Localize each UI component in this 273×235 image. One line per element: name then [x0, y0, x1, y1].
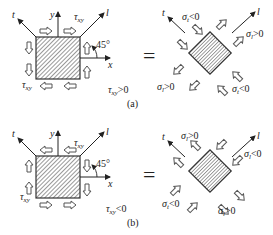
- shear-arrow-left-2: [25, 64, 33, 76]
- l-axis-arrow-rotated: [232, 12, 255, 33]
- shear-arrow-bottom-1: [40, 82, 52, 90]
- l-axis-label: l: [106, 126, 109, 137]
- stress-transformation-figure: y x t l 45° τxy τxy: [0, 0, 273, 235]
- t-axis-arrow: [18, 138, 36, 156]
- shear-arrow-right-2: [83, 66, 91, 78]
- stress-arrow-br-1: [230, 69, 244, 83]
- l-axis-label-rotated: l: [257, 6, 260, 17]
- sigma-label-right: σl<0: [244, 148, 262, 161]
- l-axis-label: l: [106, 7, 109, 18]
- shear-arrow-left-1: [25, 42, 33, 54]
- shear-label-bottom: τxy: [22, 79, 33, 92]
- t-axis-label: t: [12, 9, 15, 20]
- element-rotated-b: t l σl>0 σl<0 σt<0 σl>0: [162, 130, 262, 218]
- shear-arrow-bottom-2: [64, 201, 76, 209]
- shear-arrow-top-2: [64, 27, 76, 35]
- stress-arrow-tr-2: [232, 34, 246, 48]
- y-axis-label: y: [49, 128, 55, 139]
- shear-arrow-top-1: [40, 27, 52, 35]
- sigma-label-top: σt<0: [182, 11, 200, 24]
- shear-arrow-top-1: [40, 146, 52, 154]
- stress-arrow-tl-1: [191, 23, 205, 37]
- stress-element: [36, 156, 80, 198]
- stress-arrow-tr-1: [215, 17, 229, 31]
- stress-arrow-tl-2: [171, 155, 185, 169]
- element-xy-a: y x t l 45° τxy τxy: [12, 7, 113, 92]
- shear-arrow-right-2: [83, 184, 91, 196]
- y-axis-label: y: [49, 9, 55, 20]
- t-axis-arrow: [18, 19, 36, 37]
- panel-b: y x t l 45° τxy τxy τxy<0 (b) =: [12, 126, 262, 229]
- stress-arrow-tl-2: [176, 38, 190, 52]
- shear-arrow-left-2: [25, 182, 33, 194]
- stress-arrow-bl-1: [169, 183, 183, 197]
- t-axis-label: t: [12, 128, 15, 139]
- t-axis-label-rotated: t: [162, 7, 165, 18]
- stress-element: [36, 37, 80, 79]
- shear-arrow-bottom-1: [40, 201, 52, 209]
- sigma-label-bottom-left: σl>0: [157, 81, 175, 94]
- rotated-stress-element: [189, 150, 231, 192]
- sigma-label-bottom-right: σt<0: [232, 83, 250, 96]
- x-axis-label: x: [107, 178, 113, 189]
- condition-label: τxy>0: [108, 84, 128, 97]
- element-rotated-a: t l σt<0 σl>0 σl>0 σt<0: [157, 6, 264, 97]
- stress-arrow-bl-1: [171, 63, 185, 77]
- sigma-label-bottom-right: σl>0: [218, 205, 236, 218]
- sigma-label-right: σl>0: [246, 28, 264, 41]
- t-axis-label-rotated: t: [162, 131, 165, 142]
- l-axis-label-rotated: l: [257, 130, 260, 141]
- element-xy-b: y x t l 45° τxy τxy: [12, 126, 113, 209]
- stress-arrow-br-2: [215, 83, 229, 97]
- shear-arrow-left-1: [25, 160, 33, 172]
- stress-arrow-tr-1: [214, 138, 228, 152]
- x-axis-label: x: [107, 59, 113, 70]
- equals-sign: =: [143, 43, 155, 68]
- shear-arrow-right-1: [83, 160, 91, 172]
- stress-arrow-br-1: [233, 189, 247, 203]
- rotated-stress-element: [189, 32, 231, 74]
- shear-label-top: τxy: [74, 11, 85, 24]
- panel-a: y x t l 45° τxy τxy: [12, 6, 264, 110]
- condition-label: τxy<0: [106, 203, 126, 216]
- sigma-label-bottom-left: σt<0: [162, 198, 180, 211]
- angle-label: 45°: [96, 158, 110, 169]
- stress-arrow-bl-2: [186, 200, 200, 214]
- angle-label: 45°: [96, 39, 110, 50]
- shear-arrow-bottom-2: [64, 82, 76, 90]
- shear-arrow-right-1: [83, 42, 91, 54]
- t-axis-arrow-rotated: [168, 141, 185, 157]
- caption-a: (a): [127, 98, 138, 110]
- equals-sign: =: [143, 162, 155, 187]
- caption-b: (b): [127, 217, 139, 229]
- stress-arrow-bl-2: [187, 79, 201, 93]
- stress-arrow-tr-2: [230, 154, 244, 168]
